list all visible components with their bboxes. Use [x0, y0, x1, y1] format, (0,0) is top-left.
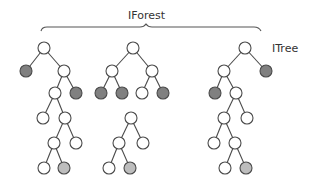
tree-node-white [48, 137, 60, 149]
tree-node-white [70, 137, 82, 149]
tree-node-white [59, 112, 71, 124]
tree-node-white [106, 65, 118, 77]
tree-node-light [240, 162, 252, 174]
tree-1 [20, 42, 82, 174]
tree-node-white [218, 112, 230, 124]
tree-nodes [20, 42, 272, 174]
curly-brace-icon [41, 24, 261, 31]
tree-node-light [58, 162, 70, 174]
iforest-label: IForest [128, 9, 166, 22]
forest-brace [41, 24, 261, 31]
tree-node-light [124, 162, 136, 174]
tree-node-dark [95, 87, 107, 99]
tree-node-white [113, 137, 125, 149]
tree-node-white [103, 162, 115, 174]
tree-node-white [208, 137, 220, 149]
tree-node-white [239, 42, 251, 54]
iforest-diagram: IForest ITree [0, 0, 309, 189]
tree-node-white [146, 65, 158, 77]
tree-node-white [229, 137, 241, 149]
tree-node-white [37, 112, 49, 124]
tree-node-white [218, 65, 230, 77]
tree-node-dark [209, 87, 221, 99]
itree-label: ITree [272, 42, 298, 55]
tree-node-dark [116, 87, 128, 99]
tree-node-white [127, 42, 139, 54]
tree-node-white [137, 137, 149, 149]
tree-node-white [58, 65, 70, 77]
tree-2 [95, 42, 169, 174]
tree-node-white [125, 112, 137, 124]
tree-node-dark [260, 65, 272, 77]
tree-node-white [230, 87, 242, 99]
tree-node-white [136, 87, 148, 99]
tree-node-white [49, 87, 61, 99]
tree-node-white [38, 42, 50, 54]
tree-node-white [241, 112, 253, 124]
tree-node-white [38, 162, 50, 174]
tree-node-dark [70, 87, 82, 99]
tree-node-dark [157, 87, 169, 99]
tree-node-dark [20, 65, 32, 77]
tree-node-white [219, 162, 231, 174]
